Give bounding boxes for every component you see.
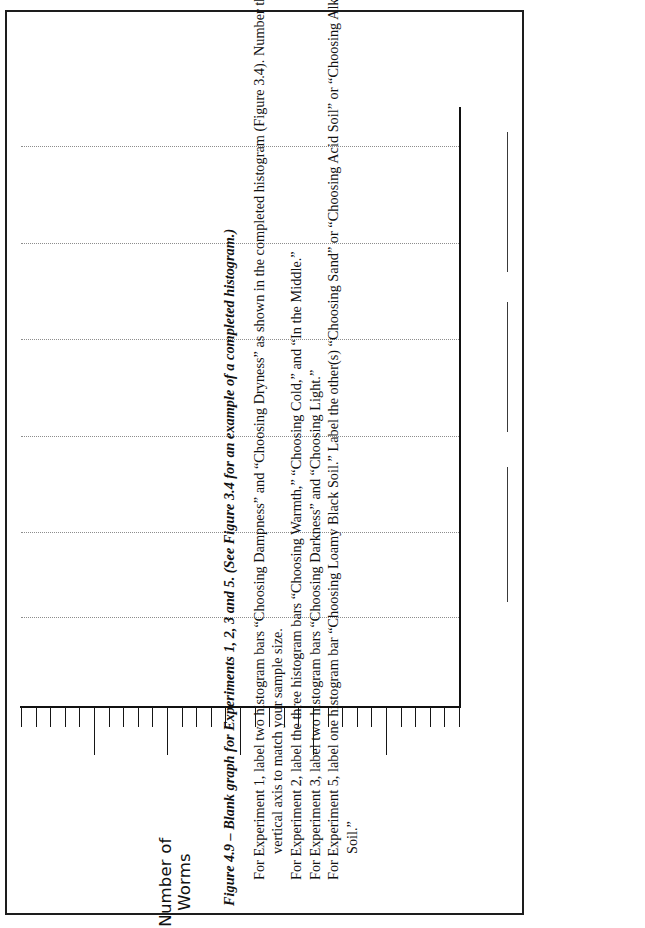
instruction-line: For Experiment 1, label two histogram ba… <box>250 26 269 906</box>
instruction-line: For Experiment 2, label the three histog… <box>287 26 306 906</box>
axis-tick-minor <box>21 707 22 727</box>
axis-title-line-2: Worms <box>176 772 195 928</box>
axis-tick-minor <box>444 707 445 727</box>
axis-tick-minor <box>415 707 416 727</box>
axis-tick-minor <box>196 707 197 727</box>
axis-tick-minor <box>211 707 212 727</box>
instruction-line: Soil.” <box>343 26 362 906</box>
answer-rule <box>507 302 508 432</box>
axis-tick-minor <box>430 707 431 727</box>
answer-rule <box>507 467 508 602</box>
answer-rule <box>507 132 508 272</box>
instruction-line: vertical axis to match your sample size. <box>268 26 287 906</box>
page-border: Number of Worms Figure 4.9 – Blank graph… <box>5 10 524 915</box>
axis-tick-minor <box>459 707 460 727</box>
axis-tick-minor <box>182 707 183 727</box>
axis-tick-minor <box>401 707 402 727</box>
axis-tick-major <box>386 707 387 755</box>
caption-and-instructions: Figure 4.9 – Blank graph for Experiments… <box>221 26 329 906</box>
axis-tick-minor <box>79 707 80 727</box>
axis-tick-minor <box>36 707 37 727</box>
figure-caption: Figure 4.9 – Blank graph for Experiments… <box>221 26 239 906</box>
axis-tick-minor <box>65 707 66 727</box>
axis-tick-minor <box>138 707 139 727</box>
instruction-line: For Experiment 5, label one histogram ba… <box>324 26 343 906</box>
axis-baseline <box>459 107 461 707</box>
axis-tick-minor <box>50 707 51 727</box>
axis-tick-minor <box>109 707 110 727</box>
instruction-line: For Experiment 3, label two histogram ba… <box>306 26 325 906</box>
axis-tick-major <box>167 707 168 755</box>
axis-tick-minor <box>152 707 153 727</box>
axis-title: Number of Worms <box>157 772 195 928</box>
axis-tick-major <box>94 707 95 755</box>
axis-tick-minor <box>371 707 372 727</box>
axis-title-line-1: Number of <box>157 772 176 928</box>
axis-tick-minor <box>123 707 124 727</box>
instruction-list: For Experiment 1, label two histogram ba… <box>250 26 361 906</box>
